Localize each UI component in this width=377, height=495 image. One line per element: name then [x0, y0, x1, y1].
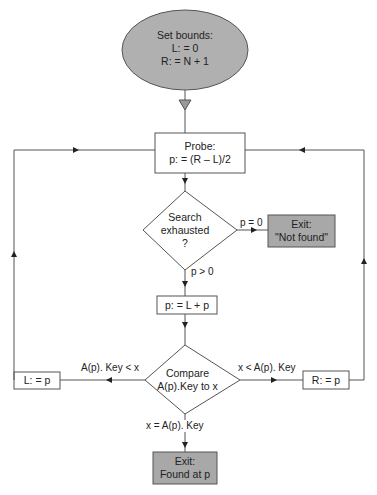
advance-node: p: = L + p	[157, 299, 217, 312]
probe-node: Probe: p: = (R – L)/2	[155, 140, 245, 166]
compare-node: Compare A(p).Key to x	[140, 367, 235, 393]
set-left-node: L: = p	[14, 374, 60, 387]
start-node-line1: Set bounds:	[125, 29, 245, 42]
found-node-line1: Exit:	[153, 455, 217, 468]
not-found-node: Exit: "Not found"	[268, 218, 335, 244]
compare-node-line1: Compare	[140, 367, 235, 380]
connector-triangle-icon	[179, 100, 191, 110]
exhausted-node-line1: Search	[145, 211, 225, 224]
start-node: Set bounds: L: = 0 R: = N + 1	[125, 29, 245, 68]
not-found-node-line1: Exit:	[268, 218, 335, 231]
compare-node-line2: A(p).Key to x	[140, 380, 235, 393]
edge-label-compare-equal: x = A(p). Key	[146, 420, 204, 432]
exhausted-node-line2: exhausted	[145, 224, 225, 237]
not-found-node-line2: "Not found"	[268, 231, 335, 244]
found-node: Exit: Found at p	[153, 455, 217, 481]
exhausted-node: Search exhausted ?	[145, 211, 225, 250]
edge-label-compare-greater: x < A(p). Key	[238, 362, 296, 374]
start-node-line3: R: = N + 1	[125, 55, 245, 68]
found-node-line2: Found at p	[153, 468, 217, 481]
exhausted-node-line3: ?	[145, 237, 225, 250]
probe-node-line1: Probe:	[155, 140, 245, 153]
start-node-line2: L: = 0	[125, 42, 245, 55]
set-right-node-line1: R: = p	[303, 374, 349, 387]
edge-label-compare-less: A(p). Key < x	[81, 362, 139, 374]
set-right-node: R: = p	[303, 374, 349, 387]
advance-node-line1: p: = L + p	[157, 299, 217, 312]
probe-node-line2: p: = (R – L)/2	[155, 153, 245, 166]
set-left-node-line1: L: = p	[14, 374, 60, 387]
edge-label-exhausted-no: p > 0	[191, 266, 214, 278]
edge-label-exhausted-yes: p = 0	[240, 217, 263, 229]
